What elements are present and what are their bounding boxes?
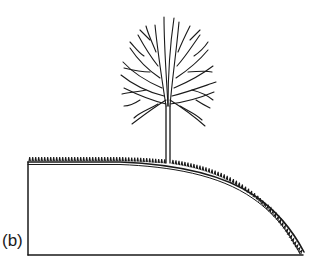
panel-label: (b) <box>2 231 23 251</box>
tree-crown <box>121 17 216 126</box>
surface-inner-line <box>28 165 300 255</box>
grass-fringe <box>29 157 302 254</box>
tree-trunk <box>166 106 170 163</box>
diagram-canvas <box>0 0 321 268</box>
ground-profile <box>28 162 304 255</box>
surface-outer-line <box>28 162 304 252</box>
tree <box>121 17 216 163</box>
